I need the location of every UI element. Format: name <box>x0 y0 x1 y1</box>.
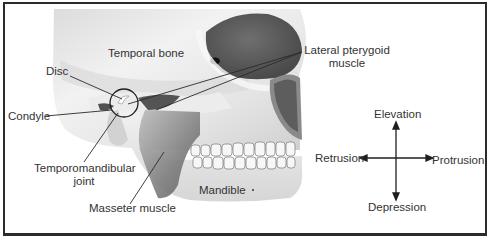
label-condyle: Condyle <box>8 110 50 123</box>
label-retrusion: Retrusion <box>315 152 364 165</box>
label-lateral-pterygoid-line2: muscle <box>303 57 391 70</box>
label-mandible: Mandible <box>199 184 246 197</box>
label-disc: Disc <box>46 65 68 78</box>
label-lateral-pterygoid: Lateral pterygoid muscle <box>303 44 391 70</box>
teeth <box>191 142 295 169</box>
label-temporal-bone: Temporal bone <box>108 47 184 60</box>
label-depression: Depression <box>368 201 426 214</box>
movement-arrows <box>360 122 433 200</box>
arrow-down-icon <box>393 193 399 200</box>
label-masseter-muscle: Masseter muscle <box>89 202 176 215</box>
label-tmj-line2: joint <box>34 175 134 188</box>
label-protrusion: Protrusion <box>432 154 484 167</box>
label-tmj: Temporomandibular joint <box>34 162 134 188</box>
arrow-up-icon <box>393 122 399 129</box>
label-elevation: Elevation <box>374 108 421 121</box>
label-tmj-line1: Temporomandibular <box>34 162 134 175</box>
label-lateral-pterygoid-line1: Lateral pterygoid <box>303 44 391 57</box>
